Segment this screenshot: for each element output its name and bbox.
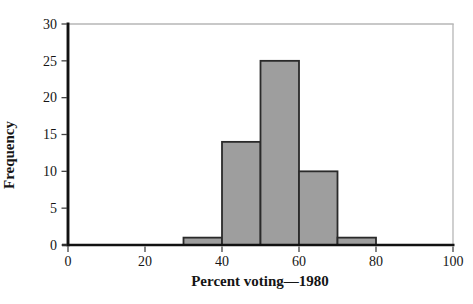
histogram-figure: 051015202530020406080100 Frequency Perce… xyxy=(0,0,473,304)
y-tick-label: 30 xyxy=(43,17,57,32)
y-tick-label: 15 xyxy=(43,127,57,142)
y-tick-label: 20 xyxy=(43,90,57,105)
histogram-bar xyxy=(222,142,261,245)
chart-canvas: 051015202530020406080100 xyxy=(0,0,473,304)
x-tick-label: 40 xyxy=(215,254,229,269)
x-tick-label: 60 xyxy=(292,254,306,269)
y-tick-label: 10 xyxy=(43,164,57,179)
x-tick-label: 0 xyxy=(65,254,72,269)
x-axis-title: Percent voting—1980 xyxy=(191,273,329,290)
histogram-bar xyxy=(261,61,300,245)
y-tick-label: 0 xyxy=(50,238,57,253)
y-tick-label: 25 xyxy=(43,54,57,69)
y-tick-label: 5 xyxy=(50,201,57,216)
histogram-bar xyxy=(299,171,338,245)
x-tick-label: 80 xyxy=(369,254,383,269)
y-axis-title: Frequency xyxy=(1,121,18,189)
x-tick-label: 100 xyxy=(443,254,464,269)
x-tick-label: 20 xyxy=(138,254,152,269)
